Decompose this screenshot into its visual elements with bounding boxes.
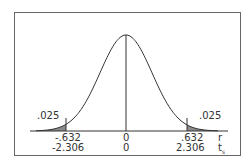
t-axis-label: ts [218, 143, 225, 157]
t-zero-tick: 0 [123, 143, 129, 153]
t-pos-tick: 2.306 [176, 143, 205, 153]
t-neg-tick: -2.306 [52, 143, 84, 153]
right-tail-area-label: .025 [199, 111, 221, 121]
left-tail-area-label: .025 [37, 111, 59, 121]
